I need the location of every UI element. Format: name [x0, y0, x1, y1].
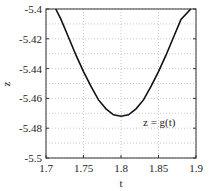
curve-g-of-t: [56, 9, 191, 116]
curve-annotation: z = g(t): [143, 116, 176, 129]
x-tick-label: 1.85: [149, 162, 169, 174]
x-tick-label: 1.9: [189, 162, 203, 174]
x-tick-label: 1.75: [74, 162, 94, 174]
y-tick-label: -5.46: [19, 92, 42, 104]
y-axis-label: z: [0, 81, 12, 86]
y-tick-label: -5.4: [25, 3, 43, 15]
line-chart: 1.71.751.81.851.9 -5.4-5.42-5.44-5.46-5.…: [0, 0, 210, 191]
y-tick-label: -5.44: [19, 63, 42, 75]
y-tick-label: -5.42: [19, 33, 42, 45]
grid-lines: [46, 9, 196, 158]
y-tick-label: -5.48: [19, 122, 42, 134]
x-tick-label: 1.8: [114, 162, 128, 174]
x-axis-label: t: [119, 177, 122, 189]
y-tick-label: -5.5: [25, 152, 43, 164]
